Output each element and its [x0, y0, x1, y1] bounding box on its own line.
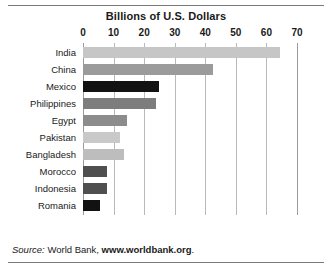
- bar-egypt: [83, 115, 127, 126]
- figure-bottom-rule: [8, 262, 324, 263]
- bar-row: [83, 47, 297, 58]
- category-label-romania: Romania: [38, 200, 76, 211]
- x-tick-label-10: 10: [108, 27, 119, 38]
- bar-morocco: [83, 166, 107, 177]
- x-tick-label-70: 70: [291, 27, 302, 38]
- source-publisher: World Bank,: [47, 244, 99, 255]
- bar-row: [83, 132, 297, 143]
- category-label-indonesia: Indonesia: [35, 183, 76, 194]
- bar-row: [83, 200, 297, 211]
- source-url: www.worldbank.org: [102, 244, 192, 255]
- bar-romania: [83, 200, 100, 211]
- category-label-china: China: [51, 64, 76, 75]
- bar-row: [83, 64, 297, 75]
- category-label-india: India: [55, 47, 76, 58]
- bar-mexico: [83, 81, 159, 92]
- source-note: Source: World Bank, www.worldbank.org.: [12, 244, 194, 255]
- plot-area: [83, 43, 297, 215]
- category-label-morocco: Morocco: [40, 166, 76, 177]
- bar-row: [83, 115, 297, 126]
- chart-title: Billions of U.S. Dollars: [0, 10, 332, 22]
- x-tick-label-60: 60: [261, 27, 272, 38]
- bar-philippines: [83, 98, 156, 109]
- figure-top-rule: [8, 5, 324, 6]
- x-tick-label-20: 20: [139, 27, 150, 38]
- x-tick-label-50: 50: [230, 27, 241, 38]
- x-tick-label-40: 40: [200, 27, 211, 38]
- category-label-pakistan: Pakistan: [40, 132, 76, 143]
- bar-china: [83, 64, 213, 75]
- source-prefix: Source:: [12, 244, 45, 255]
- bar-row: [83, 81, 297, 92]
- bar-bangladesh: [83, 149, 124, 160]
- gridline-70: [297, 43, 298, 215]
- category-label-bangladesh: Bangladesh: [26, 149, 76, 160]
- bar-pakistan: [83, 132, 120, 143]
- x-axis-tick-labels: 010203040506070: [83, 27, 297, 41]
- category-label-mexico: Mexico: [46, 81, 76, 92]
- source-suffix: .: [192, 244, 195, 255]
- bar-row: [83, 98, 297, 109]
- category-label-egypt: Egypt: [52, 115, 76, 126]
- chart-figure: Billions of U.S. Dollars 010203040506070…: [0, 0, 332, 269]
- bar-india: [83, 47, 280, 58]
- category-label-philippines: Philippines: [30, 98, 76, 109]
- bar-indonesia: [83, 183, 107, 194]
- bar-row: [83, 166, 297, 177]
- bar-row: [83, 183, 297, 194]
- x-tick-label-30: 30: [169, 27, 180, 38]
- y-axis-category-labels: IndiaChinaMexicoPhilippinesEgyptPakistan…: [0, 43, 80, 215]
- bar-row: [83, 149, 297, 160]
- bar-series: [83, 43, 297, 215]
- x-tick-label-0: 0: [80, 27, 86, 38]
